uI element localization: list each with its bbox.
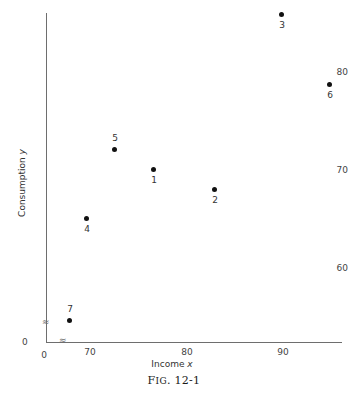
data-point-label-1: 1 bbox=[147, 176, 161, 185]
x-axis-label: Income x bbox=[112, 359, 232, 369]
data-point-7 bbox=[67, 318, 72, 323]
data-point-label-7: 7 bbox=[63, 305, 77, 314]
caption-prefix: F bbox=[148, 374, 156, 387]
data-point-4 bbox=[84, 216, 89, 221]
x-axis-label-variable: x bbox=[187, 359, 192, 369]
y-axis-origin-label: 0 bbox=[22, 337, 28, 347]
data-point-label-4: 4 bbox=[80, 225, 94, 234]
data-point-2 bbox=[212, 187, 217, 192]
y-axis-label-text: Consumption bbox=[17, 157, 27, 217]
x-tick-label-80: 80 bbox=[172, 348, 202, 357]
data-point-label-6: 6 bbox=[323, 91, 337, 100]
y-tick-label-60: 60 bbox=[318, 264, 348, 273]
y-tick-label-70: 70 bbox=[318, 166, 348, 175]
data-point-3 bbox=[279, 12, 284, 17]
x-tick-label-70: 70 bbox=[75, 348, 105, 357]
scatter-plot: 80 70 60 70 80 90 0 0 ≈ ≈ 1 2 3 4 5 6 7 … bbox=[0, 0, 348, 400]
data-point-5 bbox=[112, 147, 117, 152]
y-axis-line bbox=[46, 13, 47, 343]
caption-small-caps: IG bbox=[156, 376, 167, 386]
data-point-label-2: 2 bbox=[208, 196, 222, 205]
figure-caption: FIG. 12-1 bbox=[0, 374, 348, 387]
x-tick-label-90: 90 bbox=[268, 348, 298, 357]
x-axis-origin-label: 0 bbox=[34, 350, 54, 360]
caption-suffix: . 12-1 bbox=[167, 374, 201, 387]
data-point-6 bbox=[327, 82, 332, 87]
x-axis-line bbox=[46, 342, 342, 343]
x-axis-break-icon: ≈ bbox=[59, 336, 67, 344]
y-axis-break-icon: ≈ bbox=[42, 318, 50, 327]
x-axis-label-text: Income bbox=[151, 359, 184, 369]
y-axis-label: Consumption y bbox=[17, 123, 27, 243]
data-point-1 bbox=[151, 167, 156, 172]
y-axis-label-variable: y bbox=[17, 149, 27, 154]
data-point-label-5: 5 bbox=[108, 134, 122, 143]
y-tick-label-80: 80 bbox=[318, 68, 348, 77]
data-point-label-3: 3 bbox=[275, 21, 289, 30]
x-tick-mark-90 bbox=[0, 15, 1, 21]
figure-container: 80 70 60 70 80 90 0 0 ≈ ≈ 1 2 3 4 5 6 7 … bbox=[0, 0, 348, 400]
